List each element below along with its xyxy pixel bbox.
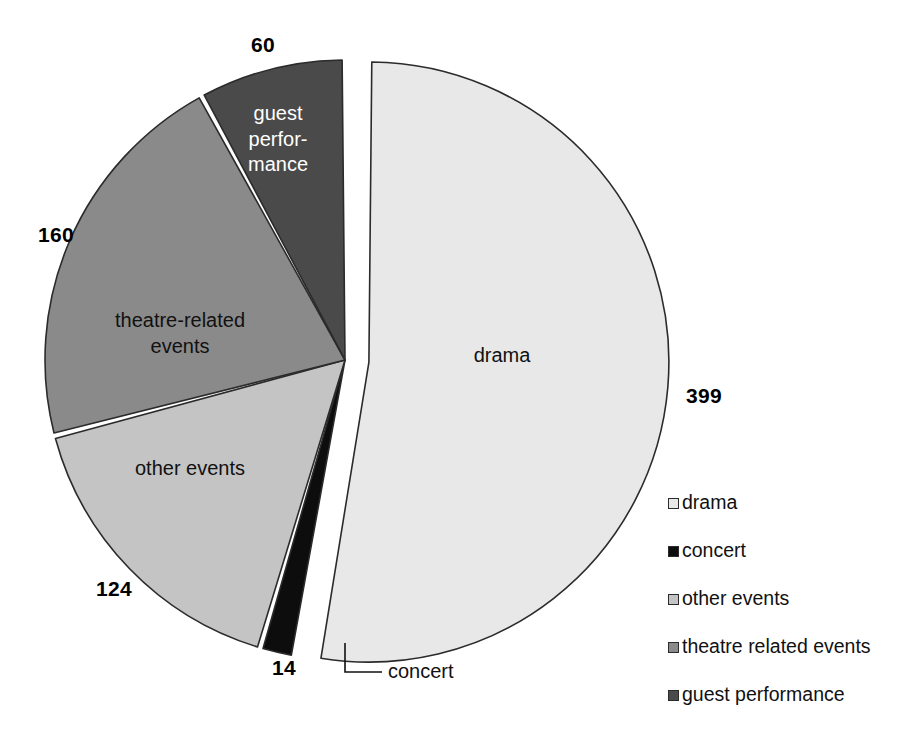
slice-label-drama: drama [442,343,562,369]
value-label-other-events: 124 [96,577,132,601]
slice-label-guest-line-3: mance [218,152,338,178]
legend-item-guest-performance[interactable]: guest performance [668,684,918,706]
slice-label-guest-line-1: guest [218,101,338,127]
slice-label-guest-performance: guest perfor- mance [218,101,338,178]
legend-swatch-icon [668,594,679,605]
legend-item-concert[interactable]: concert [668,540,918,562]
slice-label-theatre-line-1: theatre-related [60,308,300,334]
legend-swatch-icon [668,642,679,653]
legend-label: guest performance [682,685,845,705]
legend-label: drama [682,493,737,513]
legend-item-other-events[interactable]: other events [668,588,918,610]
pie-chart: 60 160 124 14 399 drama other events the… [0,0,921,747]
legend-swatch-icon [668,546,679,557]
slice-label-theatre-related: theatre-related events [60,308,300,359]
legend-item-theatre-related-events[interactable]: theatre related events [668,636,918,658]
legend-swatch-icon [668,690,679,701]
slice-label-concert: concert [388,660,454,683]
pie-slices-group [45,60,669,662]
slice-label-theatre-line-2: events [60,334,300,360]
legend-swatch-icon [668,498,679,509]
legend-label: other events [682,589,789,609]
chart-legend: dramaconcertother eventstheatre related … [668,492,918,732]
slice-label-other-events: other events [100,456,280,482]
legend-label: concert [682,541,746,561]
value-label-concert: 14 [272,656,296,680]
legend-label: theatre related events [682,637,871,657]
value-label-drama: 399 [686,384,722,408]
legend-item-drama[interactable]: drama [668,492,918,514]
value-label-guest-performance: 60 [251,33,275,57]
value-label-theatre-related: 160 [38,223,74,247]
slice-label-guest-line-2: perfor- [218,127,338,153]
